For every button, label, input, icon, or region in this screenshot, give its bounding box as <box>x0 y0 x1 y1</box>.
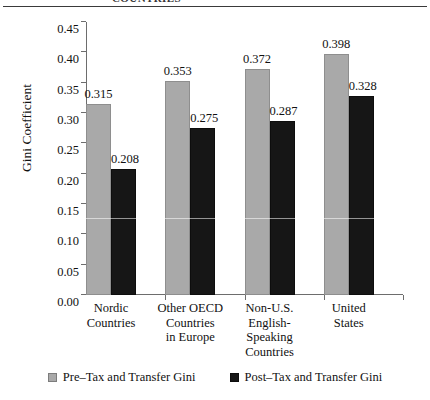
bar-post-tax: 0.275 <box>190 128 215 295</box>
bar-value-label: 0.208 <box>111 152 139 167</box>
bar-pre-tax: 0.398 <box>324 54 349 295</box>
legend-label: Pre–Tax and Transfer Gini <box>63 370 196 385</box>
legend-item-pre-tax: Pre–Tax and Transfer Gini <box>48 370 196 385</box>
bar-value-label: 0.275 <box>190 111 218 126</box>
bar-value-label: 0.398 <box>322 37 350 52</box>
bar-pre-tax: 0.372 <box>245 69 270 295</box>
x-category-label-line: States <box>299 316 399 331</box>
bar-value-label: 0.315 <box>84 87 112 102</box>
clipped-caption-text: COUNTRIES <box>112 0 181 4</box>
plot-area: 0.000.050.100.150.200.250.300.350.400.45… <box>86 22 403 295</box>
x-tick-mark <box>245 295 246 300</box>
bar-pre-tax: 0.353 <box>165 81 190 295</box>
x-tick-mark <box>324 295 325 300</box>
bar-post-tax: 0.208 <box>111 169 136 295</box>
figure: COUNTRIES Gini Coefficient 0.000.050.100… <box>0 0 430 400</box>
bar-value-label: 0.353 <box>164 64 192 79</box>
legend-label: Post–Tax and Transfer Gini <box>245 370 383 385</box>
bar-value-label: 0.287 <box>269 104 297 119</box>
bar-pre-tax: 0.315 <box>86 104 111 295</box>
y-tick-mark <box>81 82 86 83</box>
x-tick-mark <box>403 295 404 300</box>
header-rule <box>3 6 427 7</box>
legend-item-post-tax: Post–Tax and Transfer Gini <box>230 370 383 385</box>
x-category-label-line: Countries <box>220 345 320 360</box>
legend-swatch-icon <box>230 373 239 382</box>
legend-swatch-icon <box>48 373 57 382</box>
y-tick-mark <box>81 21 86 22</box>
x-category-label: UnitedStates <box>299 301 399 330</box>
x-tick-mark <box>165 295 166 300</box>
y-axis-title: Gini Coefficient <box>19 28 35 228</box>
chart-legend: Pre–Tax and Transfer GiniPost–Tax and Tr… <box>0 370 430 385</box>
x-category-label-line: Speaking <box>220 330 320 345</box>
x-category-label-line: United <box>299 301 399 316</box>
bar-post-tax: 0.287 <box>270 121 295 295</box>
bar-value-label: 0.328 <box>349 79 377 94</box>
bar-post-tax: 0.328 <box>349 96 374 295</box>
bar-value-label: 0.372 <box>243 52 271 67</box>
y-tick-mark <box>81 51 86 52</box>
